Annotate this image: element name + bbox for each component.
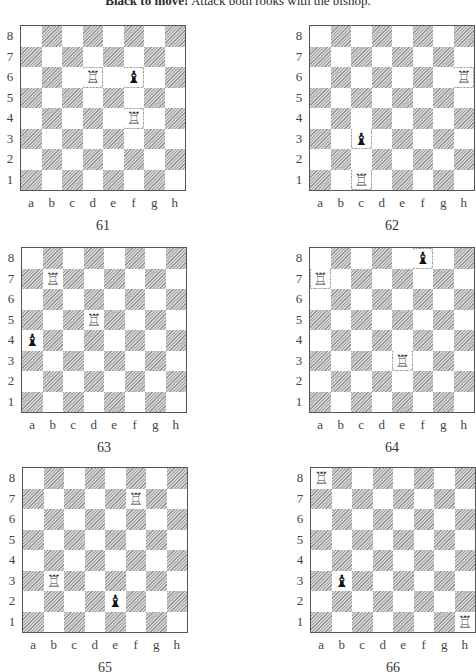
square-g6 xyxy=(433,289,454,310)
square-c4 xyxy=(63,330,84,351)
square-f2 xyxy=(125,371,146,392)
square-f8 xyxy=(124,26,145,47)
rank-label: 2 xyxy=(4,371,18,392)
square-c3 xyxy=(62,129,83,150)
file-label: b xyxy=(44,637,65,653)
square-b6 xyxy=(44,509,65,530)
square-f1 xyxy=(124,170,145,191)
square-a3 xyxy=(21,129,42,150)
square-b2 xyxy=(331,149,352,170)
square-d8 xyxy=(372,248,393,269)
square-a6 xyxy=(22,289,43,310)
square-d8 xyxy=(85,468,106,489)
square-d1 xyxy=(372,392,393,413)
square-d2 xyxy=(372,149,393,170)
square-e7 xyxy=(392,47,413,68)
file-label: d xyxy=(85,637,106,653)
square-f2 xyxy=(413,371,434,392)
square-f7: ♖ xyxy=(126,489,147,510)
file-label: b xyxy=(43,417,64,433)
square-h2 xyxy=(166,371,187,392)
square-e1 xyxy=(392,170,413,191)
square-g4 xyxy=(433,108,454,129)
square-c4 xyxy=(351,108,372,129)
rank-labels: 87654321 xyxy=(292,248,306,412)
file-label: g xyxy=(433,417,454,433)
file-label: g xyxy=(146,637,167,653)
file-label: c xyxy=(351,417,372,433)
chess-board: ♖♖♝ xyxy=(21,247,187,413)
heading-lead: Black to move! xyxy=(105,0,188,8)
square-e6 xyxy=(103,67,124,88)
rank-label: 6 xyxy=(4,289,18,310)
square-g3 xyxy=(146,571,167,592)
square-c7 xyxy=(351,47,372,68)
square-h4 xyxy=(167,550,188,571)
square-c8 xyxy=(64,468,85,489)
square-f8 xyxy=(414,468,435,489)
square-e8 xyxy=(105,468,126,489)
black-bishop-icon: ♝ xyxy=(332,571,351,590)
file-label: h xyxy=(455,637,476,653)
square-h3 xyxy=(167,571,188,592)
rank-label: 4 xyxy=(293,550,307,571)
square-d6 xyxy=(84,289,105,310)
file-label: f xyxy=(414,637,435,653)
square-b8 xyxy=(331,26,352,47)
square-a2 xyxy=(23,591,44,612)
square-h5 xyxy=(454,310,475,331)
square-c1 xyxy=(351,392,372,413)
square-f4 xyxy=(126,550,147,571)
square-e3 xyxy=(103,129,124,150)
square-c3: ♝ xyxy=(351,129,372,150)
square-a3 xyxy=(310,129,331,150)
square-h8 xyxy=(454,248,475,269)
square-f2 xyxy=(414,591,435,612)
file-label: a xyxy=(22,417,43,433)
square-h5 xyxy=(455,530,476,551)
square-c4 xyxy=(351,330,372,351)
square-d3 xyxy=(83,129,104,150)
file-label: h xyxy=(166,417,187,433)
rank-label: 7 xyxy=(3,47,17,68)
file-label: d xyxy=(372,195,393,211)
square-h2 xyxy=(165,149,186,170)
square-g7 xyxy=(433,47,454,68)
square-f7 xyxy=(124,47,145,68)
square-a4 xyxy=(311,550,332,571)
file-label: e xyxy=(392,417,413,433)
rank-labels: 87654321 xyxy=(5,468,19,632)
square-d2 xyxy=(85,591,106,612)
chess-board: ♖♝♖ xyxy=(309,25,475,191)
square-b3 xyxy=(331,351,352,372)
square-c6 xyxy=(351,67,372,88)
square-e2 xyxy=(393,591,414,612)
square-c3 xyxy=(64,571,85,592)
square-h2 xyxy=(454,149,475,170)
file-labels: abcdefgh xyxy=(310,417,474,433)
white-rook-icon: ♖ xyxy=(83,68,102,87)
square-g5 xyxy=(144,88,165,109)
square-f6 xyxy=(125,289,146,310)
square-e2 xyxy=(392,371,413,392)
square-c1 xyxy=(64,612,85,633)
rank-label: 3 xyxy=(292,351,306,372)
file-label: g xyxy=(434,637,455,653)
square-c6 xyxy=(352,509,373,530)
square-h6 xyxy=(165,67,186,88)
square-a5 xyxy=(21,88,42,109)
square-f8 xyxy=(125,248,146,269)
square-b4 xyxy=(43,330,64,351)
square-e4 xyxy=(392,108,413,129)
square-b1 xyxy=(44,612,65,633)
square-b7: ♖ xyxy=(43,269,64,290)
square-d6: ♖ xyxy=(83,67,104,88)
square-a8 xyxy=(21,26,42,47)
square-b8 xyxy=(43,248,64,269)
square-g2 xyxy=(434,591,455,612)
square-c7 xyxy=(62,47,83,68)
rank-label: 8 xyxy=(3,26,17,47)
rank-label: 1 xyxy=(293,612,307,633)
square-b2 xyxy=(44,591,65,612)
rank-label: 2 xyxy=(292,371,306,392)
